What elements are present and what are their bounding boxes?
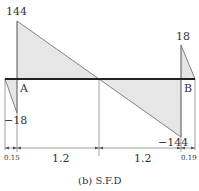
- label-18: 18: [176, 30, 190, 43]
- label-144: 144: [6, 5, 27, 18]
- negative-region-144: [99, 79, 181, 137]
- label-support-b: B: [184, 82, 192, 95]
- label-neg-18: −18: [4, 114, 27, 127]
- label-support-a: A: [19, 82, 29, 95]
- right-positive-region: [181, 45, 195, 79]
- caption: (b) S.F.D: [78, 175, 122, 186]
- shear-force-diagram: 144 −18 A B 18 −144 0.15 1.2 1.2 0.19 (b…: [0, 0, 199, 191]
- dim-label-2: 1.2: [134, 152, 152, 165]
- sfd-canvas: 144 −18 A B 18 −144 0.15 1.2 1.2 0.19 (b…: [0, 0, 199, 191]
- positive-region-144: [17, 21, 99, 79]
- dim-label-3: 0.19: [181, 154, 197, 162]
- dim-label-0: 0.15: [4, 154, 20, 162]
- left-negative-region: [5, 79, 17, 113]
- dim-label-1: 1.2: [52, 152, 70, 165]
- label-neg-144: −144: [158, 136, 188, 149]
